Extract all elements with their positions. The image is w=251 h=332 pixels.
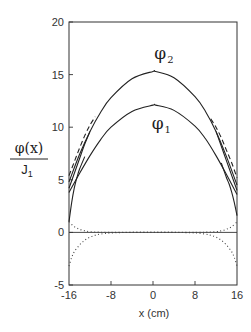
label-phi1: φ1 [152, 113, 171, 135]
y-tick-label: 20 [52, 16, 64, 28]
y-tick-label: 15 [52, 69, 64, 81]
plot-frame [69, 22, 237, 285]
curve-labels: φ2φ1 [152, 43, 174, 135]
curve-diffusion-dashed-left [69, 117, 95, 176]
axis-ticks: -505101520-16-80816 [52, 16, 243, 301]
curve-dotted-positive [69, 222, 237, 233]
plot-border [69, 22, 237, 285]
y-tick-label: 10 [52, 121, 64, 133]
data-curves [69, 71, 237, 266]
x-tick-label: 0 [150, 289, 156, 301]
x-tick-label: 8 [192, 289, 198, 301]
flux-chart: -505101520-16-80816 φ2φ1 φ(x) J1 x (cm) [0, 0, 251, 332]
y-axis-label-numerator: φ(x) [15, 140, 44, 156]
x-tick-label: -8 [106, 289, 116, 301]
x-tick-label: 16 [231, 289, 243, 301]
y-tick-label: 0 [58, 226, 64, 238]
x-axis-label: x (cm) [139, 307, 170, 319]
y-axis-label: φ(x) J1 [10, 140, 48, 179]
label-phi2: φ2 [154, 43, 173, 65]
curve-dotted-negative [69, 232, 237, 266]
y-tick-label: 5 [58, 174, 64, 186]
x-tick-label: -16 [61, 289, 77, 301]
y-axis-label-denominator: J1 [21, 162, 33, 179]
